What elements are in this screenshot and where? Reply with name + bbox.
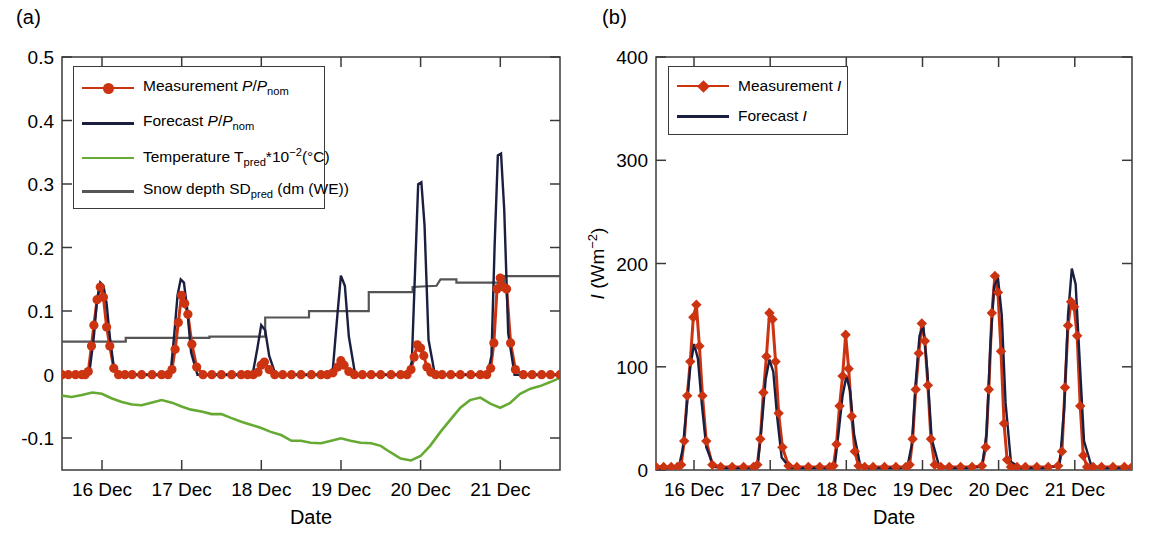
panel-b-xlabel: Date: [656, 506, 1132, 529]
data-point-marker: [1063, 320, 1073, 330]
data-point-marker: [843, 364, 853, 374]
data-point-marker: [174, 318, 183, 327]
legend-item-snow-depth[interactable]: Snow depth SDpred (dm (WE)): [82, 177, 349, 205]
figure-root: (a): [0, 0, 1158, 543]
ytick-label: 0: [43, 365, 54, 386]
data-point-marker: [981, 442, 991, 452]
ytick-label: -0.1: [21, 428, 54, 449]
data-point-marker: [847, 411, 857, 421]
legend-item-forecast-irradiance[interactable]: Forecast I: [677, 103, 807, 129]
series-measurement-power-markers: [57, 274, 564, 380]
legend-swatch-snow-depth: [82, 184, 134, 198]
data-point-marker: [177, 291, 186, 300]
data-point-marker: [96, 282, 105, 291]
xtick-label: 17 Dec: [740, 479, 800, 500]
data-point-marker: [437, 370, 446, 379]
data-point-marker: [831, 439, 841, 449]
legend-swatch-forecast-irradiance: [677, 109, 729, 123]
legend-swatch-measurement-irradiance: [677, 79, 729, 93]
xtick-label: 19 Dec: [892, 479, 952, 500]
panel-b-ytick-labels: 400 300 200 100 0: [616, 47, 648, 481]
data-point-marker: [217, 370, 226, 379]
data-point-marker: [102, 322, 111, 331]
data-point-marker: [147, 370, 156, 379]
ytick-label: 200: [616, 254, 648, 275]
series-measurement-irradiance-markers: [651, 271, 1137, 472]
data-point-marker: [406, 365, 415, 374]
data-point-marker: [697, 390, 707, 400]
data-point-marker: [546, 370, 555, 379]
data-point-marker: [685, 356, 695, 366]
data-point-marker: [167, 365, 176, 374]
diamond-marker-icon: [697, 80, 710, 93]
data-point-marker: [923, 380, 933, 390]
data-point-marker: [528, 370, 537, 379]
series-measurement-power-line: [62, 278, 560, 375]
data-point-marker: [537, 370, 546, 379]
xtick-label: 17 Dec: [152, 479, 212, 500]
data-point-marker: [137, 370, 146, 379]
xtick-label: 16 Dec: [72, 479, 132, 500]
data-point-marker: [777, 442, 787, 452]
data-point-marker: [834, 401, 844, 411]
data-point-marker: [171, 345, 180, 354]
data-point-marker: [987, 308, 997, 318]
legend-label-forecast-irradiance: Forecast I: [738, 108, 807, 124]
legend-item-measurement-power[interactable]: Measurement P/Pnom: [82, 74, 289, 102]
data-point-marker: [917, 318, 927, 328]
legend-item-measurement-irradiance[interactable]: Measurement I: [677, 73, 841, 99]
data-point-marker: [180, 299, 189, 308]
panel-a-ytick-labels: 0.5 0.4 0.3 0.2 0.1 0 -0.1: [21, 47, 54, 449]
ytick-label: 0.3: [28, 174, 54, 195]
data-point-marker: [87, 342, 96, 351]
data-point-marker: [1072, 331, 1082, 341]
data-point-marker: [84, 367, 93, 376]
data-point-marker: [386, 370, 395, 379]
legend-label-snow-depth: Snow depth SDpred (dm (WE)): [143, 181, 349, 200]
data-point-marker: [984, 384, 994, 394]
data-point-marker: [911, 384, 921, 394]
panel-b-axes: 400 300 200 100 0 16 Dec 17 Dec 18 Dec 1…: [578, 0, 1158, 543]
legend-item-temperature[interactable]: Temperature Tpred*10−2(°C): [82, 144, 330, 172]
ytick-label: 0.4: [28, 111, 55, 132]
legend-label-forecast-power: Forecast P/Pnom: [143, 113, 254, 132]
data-point-marker: [207, 370, 216, 379]
data-point-marker: [287, 370, 296, 379]
data-point-marker: [367, 370, 376, 379]
data-point-marker: [350, 370, 359, 379]
data-point-marker: [926, 434, 936, 444]
data-point-marker: [105, 342, 114, 351]
data-point-marker: [270, 370, 279, 379]
panel-b: (b): [578, 0, 1158, 543]
legend-swatch-measurement-power: [82, 81, 134, 95]
data-point-marker: [506, 338, 515, 347]
ytick-label: 0.1: [28, 301, 54, 322]
xtick-label: 21 Dec: [470, 479, 530, 500]
series-temperature: [62, 378, 560, 461]
ytick-label: 300: [616, 150, 648, 171]
series-forecast-irradiance: [656, 269, 1132, 468]
data-point-marker: [376, 370, 385, 379]
data-point-marker: [227, 370, 236, 379]
data-point-marker: [489, 338, 498, 347]
xtick-label: 16 Dec: [664, 479, 724, 500]
panel-a-xtick-labels: 16 Dec 17 Dec 18 Dec 19 Dec 20 Dec 21 De…: [72, 479, 531, 500]
data-point-marker: [496, 274, 505, 283]
data-point-marker: [840, 330, 850, 340]
legend-label-temperature: Temperature Tpred*10−2(°C): [143, 147, 330, 168]
data-point-marker: [758, 387, 768, 397]
legend-label-measurement-power: Measurement P/Pnom: [143, 78, 289, 97]
data-point-marker: [773, 408, 783, 418]
panel-a: (a): [0, 0, 580, 543]
data-point-marker: [701, 436, 711, 446]
data-point-marker: [486, 364, 495, 373]
legend-item-forecast-power[interactable]: Forecast P/Pnom: [82, 109, 254, 137]
data-point-marker: [89, 321, 98, 330]
legend-swatch-temperature: [82, 151, 134, 165]
data-point-marker: [358, 370, 367, 379]
series-snow-depth: [62, 276, 560, 341]
data-point-marker: [99, 293, 108, 302]
circle-marker-icon: [103, 83, 114, 94]
ytick-label: 0.5: [28, 47, 54, 68]
data-point-marker: [198, 370, 207, 379]
